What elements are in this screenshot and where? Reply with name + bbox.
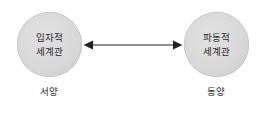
node-label-line-1: 입자적 (36, 31, 64, 45)
caption-east: 동양 (184, 84, 249, 98)
node-wave-worldview[interactable]: 파동적 세계관 (184, 12, 249, 77)
node-label-line-1: 파동적 (203, 31, 231, 45)
caption-west: 서양 (17, 84, 82, 98)
double-headed-arrow-icon (82, 36, 184, 54)
diagram-canvas: 입자적 세계관 파동적 세계관 서양 동양 (0, 0, 264, 113)
node-particle-worldview[interactable]: 입자적 세계관 (17, 12, 82, 77)
node-label-line-2: 세계관 (203, 45, 231, 59)
node-label-line-2: 세계관 (36, 45, 64, 59)
